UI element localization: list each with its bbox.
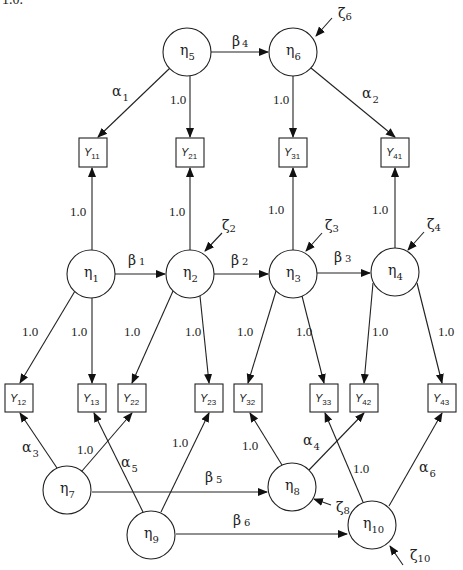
indicator-Y23: Y23 xyxy=(195,384,223,412)
latent-eta7: η7 xyxy=(43,466,91,514)
beta3-label: β3 xyxy=(334,249,351,265)
load-eta4-y43: 1.0 xyxy=(438,324,454,339)
beta4-label: β4 xyxy=(232,33,248,49)
latent-eta2: η2 xyxy=(166,250,214,298)
latent-eta9: η9 xyxy=(127,511,175,559)
zeta8-label: ζ8 xyxy=(336,499,350,516)
load-eta2-y22: 1.0 xyxy=(124,324,140,339)
latent-eta4: η4 xyxy=(371,248,419,296)
beta1-label: β1 xyxy=(128,252,145,268)
alpha6-label: α6 xyxy=(419,459,436,479)
alpha1-label: α1 xyxy=(112,83,129,103)
edge-alpha6 xyxy=(389,413,442,506)
edge-alpha1 xyxy=(98,68,170,137)
edge-eta3-y33 xyxy=(302,296,324,383)
load-eta1-y11: 1.0 xyxy=(70,204,86,219)
alpha3-label: α3 xyxy=(22,439,39,459)
indicator-Y12: Y12 xyxy=(5,384,33,412)
indicator-Y42: Y42 xyxy=(350,384,378,412)
latent-eta10: η10 xyxy=(348,501,396,549)
load-eta4-y42: 1.0 xyxy=(372,324,388,339)
indicator-Y22: Y22 xyxy=(118,384,146,412)
edge-eta9-y23 xyxy=(161,413,209,512)
load-eta3-y31: 1.0 xyxy=(268,202,284,217)
beta6-label: β6 xyxy=(233,512,250,528)
load-eta8-y32: 1.0 xyxy=(242,438,258,453)
indicator-Y31: Y31 xyxy=(279,138,307,167)
load-eta9-y23: 1.0 xyxy=(172,435,188,450)
latent-eta1: η1 xyxy=(67,250,115,298)
load-eta3-y33: 1.0 xyxy=(296,324,312,339)
zeta2-label: ζ2 xyxy=(222,217,236,234)
latent-eta5: η5 xyxy=(163,28,211,76)
zeta10-arrow xyxy=(390,546,403,565)
beta2-label: β2 xyxy=(231,252,248,268)
load-eta3-y32: 1.0 xyxy=(237,324,253,339)
indicator-Y21: Y21 xyxy=(176,138,204,167)
zeta6-label: ζ6 xyxy=(338,5,352,22)
alpha2-label: α2 xyxy=(362,85,379,105)
path-diagram: η5 η6 η1 η2 η3 η4 η7 η8 η9 η10 Y11 xyxy=(0,0,463,570)
indicator-Y11: Y11 xyxy=(79,138,107,167)
indicator-Y41: Y41 xyxy=(381,138,409,167)
load-eta2-y23: 1.0 xyxy=(185,324,201,339)
indicator-Y43: Y43 xyxy=(428,384,456,412)
alpha5-label: α5 xyxy=(121,454,138,474)
load-eta2-y21: 1.0 xyxy=(169,204,185,219)
edge-alpha2 xyxy=(311,68,395,137)
load-eta5-y21: 1.0 xyxy=(170,92,186,107)
indicator-Y13: Y13 xyxy=(78,384,106,412)
zeta8-arrow xyxy=(314,499,331,505)
load-eta6-y31: 1.0 xyxy=(273,92,289,107)
edge-eta2-y23 xyxy=(200,296,209,383)
load-eta1-y13: 1.0 xyxy=(71,324,87,339)
indicator-Y33: Y33 xyxy=(310,384,338,412)
zeta3-arrow xyxy=(306,233,322,251)
zeta10-label: ζ10 xyxy=(410,547,430,564)
load-eta10-y33: 1.0 xyxy=(353,461,369,476)
zeta2-arrow xyxy=(205,233,222,251)
zeta4-arrow xyxy=(408,232,424,250)
beta5-label: β5 xyxy=(205,469,222,485)
load-eta4-y41: 1.0 xyxy=(372,202,388,217)
indicator-Y32: Y32 xyxy=(234,384,262,412)
latent-eta6: η6 xyxy=(269,28,317,76)
zeta6-arrow xyxy=(316,18,332,36)
load-eta7-y22: 1.0 xyxy=(77,442,93,457)
load-eta1-y12: 1.0 xyxy=(22,324,38,339)
edge-eta10-y33 xyxy=(325,413,363,502)
latent-eta8: η8 xyxy=(268,463,316,511)
zeta4-label: ζ4 xyxy=(427,216,441,233)
latent-eta3: η3 xyxy=(269,250,317,298)
alpha4-label: α4 xyxy=(303,432,320,452)
zeta3-label: ζ3 xyxy=(325,217,339,234)
